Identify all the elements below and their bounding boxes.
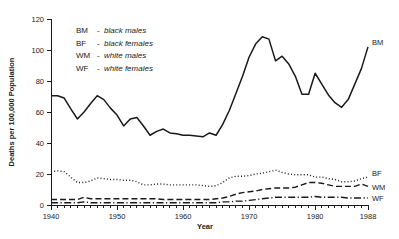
legend-separator: - — [97, 51, 100, 60]
legend-description-bm: black males — [104, 26, 146, 35]
legend-description-bf: black females — [104, 39, 153, 48]
x-axis-title: Year — [197, 222, 213, 231]
y-tick-label: 80 — [36, 77, 44, 86]
x-tick-label: 1960 — [175, 212, 192, 221]
x-axis-ticks: 194019501960197019801988 — [43, 205, 377, 221]
x-tick-label: 1940 — [43, 212, 60, 221]
series-line-wf — [51, 196, 368, 202]
y-axis-title: Deaths per 100,000 Population — [7, 57, 16, 166]
series-lines — [51, 37, 368, 203]
x-tick-label: 1950 — [109, 212, 126, 221]
end-label-wm: WM — [372, 183, 385, 192]
legend-code-bf: BF — [76, 39, 86, 48]
chart-container: 020406080100120 Deaths per 100,000 Popul… — [0, 0, 399, 239]
x-tick-label: 1988 — [360, 212, 377, 221]
y-tick-label: 100 — [31, 46, 44, 55]
x-tick-label: 1980 — [307, 212, 324, 221]
legend-separator: - — [97, 39, 100, 48]
end-label-wf: WF — [372, 194, 384, 203]
y-tick-label: 0 — [40, 201, 44, 210]
line-chart: 020406080100120 Deaths per 100,000 Popul… — [0, 0, 399, 239]
y-tick-label: 60 — [36, 108, 44, 117]
x-tick-label: 1970 — [241, 212, 258, 221]
series-end-labels: BMBFWMWF — [372, 38, 385, 203]
end-label-bm: BM — [372, 38, 383, 47]
legend-code-wf: WF — [76, 64, 89, 73]
legend-separator: - — [97, 64, 100, 73]
y-tick-label: 20 — [36, 170, 44, 179]
end-label-bf: BF — [372, 169, 382, 178]
legend-description-wm: white males — [104, 51, 146, 60]
x-axis: 194019501960197019801988 Year — [43, 205, 377, 231]
legend: BM-black malesBF-black femalesWM-white m… — [76, 26, 153, 73]
legend-description-wf: white females — [104, 64, 153, 73]
series-line-bf — [51, 170, 368, 186]
legend-code-bm: BM — [76, 26, 88, 35]
y-tick-label: 120 — [31, 15, 44, 24]
y-tick-label: 40 — [36, 139, 44, 148]
y-axis: 020406080100120 Deaths per 100,000 Popul… — [7, 15, 51, 210]
legend-separator: - — [97, 26, 100, 35]
legend-code-wm: WM — [76, 51, 91, 60]
y-axis-ticks: 020406080100120 — [31, 15, 51, 210]
